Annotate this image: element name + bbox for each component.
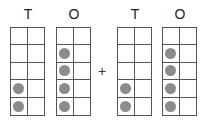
frame-cell bbox=[135, 45, 152, 62]
counter-dot bbox=[120, 83, 131, 94]
frame-cell bbox=[74, 98, 91, 115]
counter-dot bbox=[59, 83, 70, 94]
frame-cell bbox=[11, 98, 28, 115]
counter-dot bbox=[165, 101, 176, 112]
counter-dot bbox=[165, 48, 176, 59]
frame-cell bbox=[57, 45, 74, 62]
frame-cell bbox=[28, 63, 45, 80]
frame-cell bbox=[118, 80, 135, 97]
ones-frame-2 bbox=[162, 27, 197, 116]
frame-cell bbox=[180, 28, 197, 45]
counter-dot bbox=[59, 101, 70, 112]
frame-cell bbox=[163, 98, 180, 115]
frame-cell bbox=[28, 28, 45, 45]
frame-cell bbox=[74, 80, 91, 97]
counter-dot bbox=[165, 65, 176, 76]
label-tens-1: T bbox=[10, 6, 46, 22]
frame-cell bbox=[74, 63, 91, 80]
frame-cell bbox=[135, 98, 152, 115]
frame-cell bbox=[74, 45, 91, 62]
label-ones-2: O bbox=[162, 6, 198, 22]
frame-cell bbox=[11, 80, 28, 97]
frame-cell bbox=[163, 80, 180, 97]
frame-cell bbox=[57, 80, 74, 97]
plus-sign: + bbox=[98, 63, 106, 79]
frame-cell bbox=[180, 63, 197, 80]
frame-cell bbox=[74, 28, 91, 45]
frame-cell bbox=[11, 28, 28, 45]
frame-cell bbox=[118, 98, 135, 115]
frame-cell bbox=[28, 45, 45, 62]
frame-cell bbox=[28, 80, 45, 97]
frame-cell bbox=[180, 98, 197, 115]
frame-cell bbox=[11, 45, 28, 62]
frame-cell bbox=[135, 28, 152, 45]
tens-frame-1 bbox=[10, 27, 45, 116]
frame-cell bbox=[135, 80, 152, 97]
counter-dot bbox=[13, 83, 24, 94]
frame-cell bbox=[118, 45, 135, 62]
counter-dot bbox=[13, 101, 24, 112]
frame-cell bbox=[28, 98, 45, 115]
frame-cell bbox=[57, 98, 74, 115]
label-ones-1: O bbox=[56, 6, 92, 22]
frame-cell bbox=[57, 28, 74, 45]
label-tens-2: T bbox=[117, 6, 153, 22]
ones-frame-1 bbox=[56, 27, 91, 116]
counter-dot bbox=[120, 101, 131, 112]
frame-cell bbox=[118, 28, 135, 45]
frame-cell bbox=[163, 63, 180, 80]
frame-cell bbox=[180, 45, 197, 62]
counter-dot bbox=[59, 65, 70, 76]
counter-dot bbox=[59, 48, 70, 59]
frame-cell bbox=[163, 28, 180, 45]
frame-cell bbox=[163, 45, 180, 62]
frame-cell bbox=[180, 80, 197, 97]
frame-cell bbox=[118, 63, 135, 80]
frame-cell bbox=[11, 63, 28, 80]
counter-dot bbox=[165, 83, 176, 94]
tens-frame-2 bbox=[117, 27, 152, 116]
frame-cell bbox=[135, 63, 152, 80]
frame-cell bbox=[57, 63, 74, 80]
